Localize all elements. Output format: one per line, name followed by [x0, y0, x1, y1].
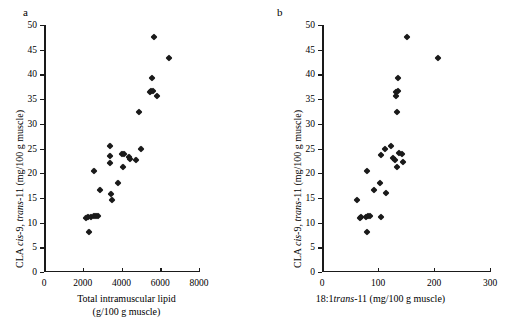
data-point — [108, 196, 115, 203]
panel-b-y-axis-title: CLA cis-9, trans-11 (mg/100 g muscle) — [292, 110, 303, 268]
data-point — [132, 156, 139, 163]
y-tick-mark — [318, 149, 322, 150]
y-tick-label: 30 — [28, 119, 38, 129]
y-tick-mark — [40, 74, 44, 75]
panel-b-plot-area: 05101520253035404550 0100200300 — [322, 25, 490, 272]
data-point — [151, 33, 158, 40]
x-tick-label: 0 — [320, 278, 325, 288]
y-tick-mark — [318, 223, 322, 224]
y-tick-label: 15 — [28, 193, 38, 203]
data-point — [85, 228, 92, 235]
x-title-trans: trans — [334, 293, 355, 304]
panel-a-y-axis-title: CLA cis-9, trans-11 (mg/100 g muscle) — [14, 110, 25, 268]
x-tick-label: 100 — [371, 278, 385, 288]
y-title-trans: trans — [14, 201, 25, 222]
data-point — [137, 145, 144, 152]
data-point — [395, 75, 402, 82]
data-point — [165, 54, 172, 61]
x-tick-mark — [44, 268, 45, 272]
y-tick-mark — [40, 223, 44, 224]
x-title-suffix: -11 (mg/100 g muscle) — [354, 293, 445, 304]
y-tick-label: 35 — [28, 94, 38, 104]
data-point — [135, 108, 142, 115]
data-point — [376, 179, 383, 186]
data-point — [400, 159, 407, 166]
data-point — [91, 167, 98, 174]
y-tick-label: 10 — [306, 218, 316, 228]
y-tick-label: 20 — [306, 168, 316, 178]
y-title-mid: -9, — [292, 222, 303, 235]
y-tick-mark — [40, 149, 44, 150]
panel-a-x-axis-title-line1: Total intramuscular lipid — [0, 292, 253, 305]
y-tick-label: 15 — [306, 193, 316, 203]
y-title-trans: trans — [292, 201, 303, 222]
x-tick-label: 0 — [42, 278, 47, 288]
panel-b-y-axis-line — [322, 25, 324, 272]
data-point — [353, 196, 360, 203]
y-tick-label: 10 — [28, 218, 38, 228]
data-point — [370, 186, 377, 193]
y-title-cis: cis — [14, 235, 25, 246]
x-tick-mark — [378, 268, 379, 272]
x-tick-mark — [160, 268, 161, 272]
y-tick-mark — [40, 50, 44, 51]
y-tick-label: 0 — [310, 267, 315, 277]
x-tick-mark — [83, 268, 84, 272]
y-tick-mark — [318, 173, 322, 174]
data-point — [377, 151, 384, 158]
y-tick-mark — [318, 247, 322, 248]
data-point — [435, 54, 442, 61]
y-title-cis: cis — [292, 235, 303, 246]
y-tick-label: 25 — [306, 144, 316, 154]
panel-a-plot-area: 05101520253035404550 02000400060008000 — [44, 25, 199, 272]
data-point — [382, 190, 389, 197]
y-tick-label: 50 — [28, 20, 38, 30]
data-point — [148, 75, 155, 82]
panel-a-x-axis-title-line2: (g/100 g muscle) — [0, 305, 253, 318]
y-tick-label: 5 — [310, 242, 315, 252]
y-tick-mark — [40, 272, 44, 273]
data-point — [106, 142, 113, 149]
y-tick-label: 40 — [28, 69, 38, 79]
panel-a-label: a — [23, 6, 28, 18]
data-point — [120, 164, 127, 171]
y-title-mid: -9, — [14, 222, 25, 235]
y-tick-mark — [40, 124, 44, 125]
y-tick-mark — [318, 99, 322, 100]
y-tick-mark — [40, 173, 44, 174]
y-tick-label: 35 — [306, 94, 316, 104]
x-tick-mark — [322, 268, 323, 272]
data-point — [106, 152, 113, 159]
y-tick-mark — [40, 99, 44, 100]
data-point — [363, 228, 370, 235]
panel-a: a 05101520253035404550 02000400060008000… — [0, 0, 253, 330]
y-tick-label: 30 — [306, 119, 316, 129]
x-tick-label: 200 — [427, 278, 441, 288]
y-tick-label: 5 — [32, 242, 37, 252]
data-point — [404, 33, 411, 40]
data-point — [154, 93, 161, 100]
x-tick-mark — [490, 268, 491, 272]
x-tick-label: 300 — [483, 278, 497, 288]
data-point — [97, 186, 104, 193]
y-tick-mark — [318, 50, 322, 51]
y-tick-mark — [40, 25, 44, 26]
data-point — [388, 142, 395, 149]
x-tick-mark — [199, 268, 200, 272]
y-tick-label: 20 — [28, 168, 38, 178]
y-tick-mark — [40, 247, 44, 248]
x-tick-mark — [434, 268, 435, 272]
y-tick-label: 40 — [306, 69, 316, 79]
data-point — [114, 179, 121, 186]
y-tick-label: 25 — [28, 144, 38, 154]
data-point — [393, 108, 400, 115]
x-tick-label: 2000 — [73, 278, 92, 288]
data-point — [392, 156, 399, 163]
y-tick-mark — [318, 198, 322, 199]
data-point — [363, 167, 370, 174]
y-tick-mark — [40, 198, 44, 199]
panel-b: b 05101520253035404550 0100200300 CLA ci… — [254, 0, 507, 330]
data-point — [106, 159, 113, 166]
y-tick-label: 45 — [28, 45, 38, 55]
panel-a-y-axis-line — [44, 25, 46, 272]
